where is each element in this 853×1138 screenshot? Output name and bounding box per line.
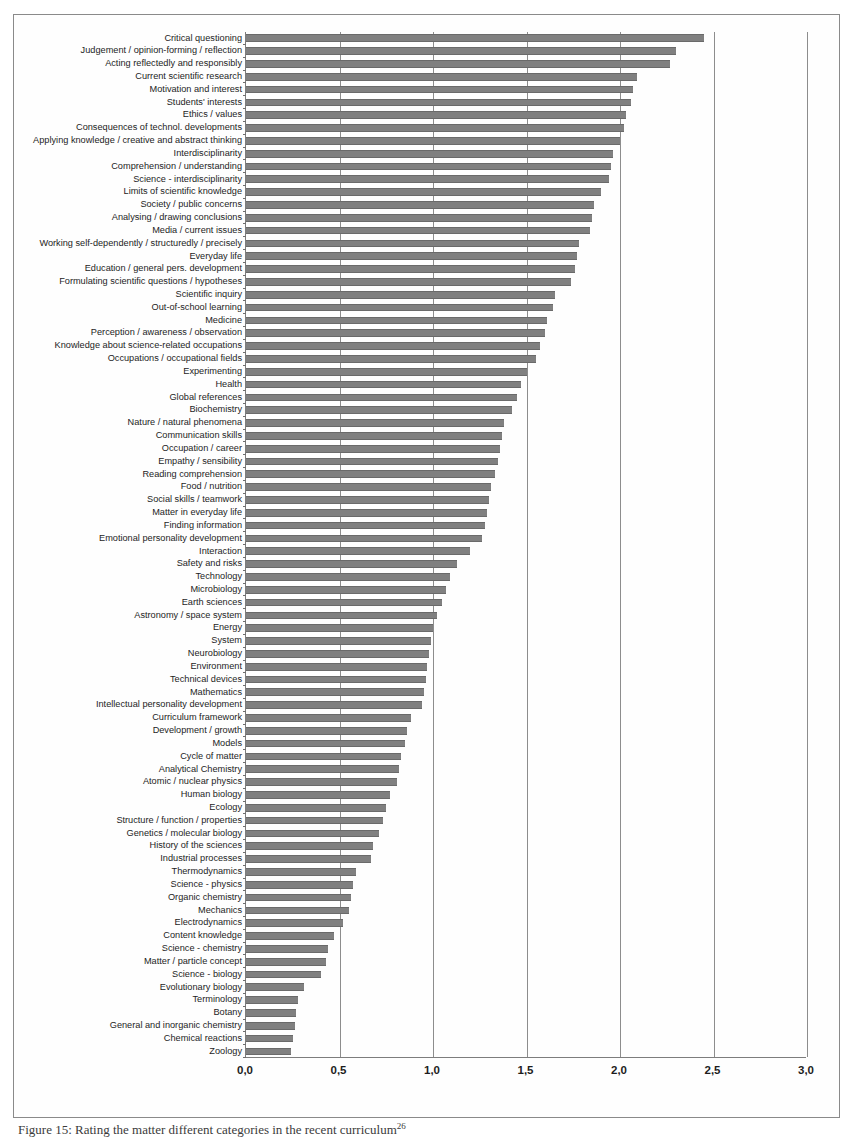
category-label: Finding information [164,519,242,532]
bar [246,175,609,183]
bar [246,778,397,786]
category-label: Society / public concerns [140,198,242,211]
category-label: Matter / particle concept [144,955,242,968]
bar [246,535,482,543]
bar [246,894,351,902]
bar [246,1022,295,1030]
x-axis-tick-labels: 0,00,51,01,52,02,53,0 [245,1064,806,1084]
bar-row: Nature / natural phenomena [246,417,806,430]
category-label: Thermodynamics [172,865,242,878]
category-label: Everyday life [189,250,242,263]
figure-caption-text: Figure 15: Rating the matter different c… [18,1122,397,1137]
category-label: Empathy / sensibility [158,455,242,468]
bar [246,227,590,235]
bar-row: Formulating scientific questions / hypot… [246,276,806,289]
bar [246,637,431,645]
category-label: Neurobiology [188,647,242,660]
bar [246,291,555,299]
bar-row: Finding information [246,519,806,532]
category-label: Experimenting [183,365,242,378]
category-label: Atomic / nuclear physics [143,775,242,788]
bar-row: Mathematics [246,686,806,699]
bar-row: Astronomy / space system [246,609,806,622]
bar [246,624,433,632]
category-label: Ethics / values [183,108,242,121]
bar [246,868,356,876]
bar [246,201,594,209]
bar-row: Acting reflectedly and responsibly [246,58,806,71]
bar [246,137,620,145]
y-axis-tick [243,1057,246,1058]
bar [246,945,328,953]
category-label: Medicine [205,314,242,327]
bar-row: History of the sciences [246,840,806,853]
category-label: Microbiology [190,583,242,596]
bar [246,765,399,773]
bar [246,432,502,440]
bar [246,791,390,799]
bar [246,470,495,478]
bar-row: Models [246,737,806,750]
bar-row: Zoology [246,1045,806,1058]
category-label: Social skills / teamwork [147,493,242,506]
plot-area: Critical questioningJudgement / opinion-… [245,32,806,1058]
bar-row: Ethics / values [246,109,806,122]
category-label: Astronomy / space system [134,609,242,622]
bar [246,932,334,940]
category-label: History of the sciences [150,839,242,852]
category-label: Electrodynamics [175,916,242,929]
bar [246,817,383,825]
bar-row: Human biology [246,789,806,802]
bar [246,252,577,260]
bar [246,586,446,594]
bar [246,907,349,915]
category-label: Acting reflectedly and responsibly [105,57,242,70]
category-label: Scientific inquiry [176,288,242,301]
bar-row: Communication skills [246,430,806,443]
figure-caption-footnote: 26 [397,1121,406,1131]
bar-row: Judgement / opinion-forming / reflection [246,45,806,58]
bar-row: Working self-dependently / structuredly … [246,237,806,250]
bar [246,188,601,196]
bar [246,355,536,363]
bar-row: Reading comprehension [246,468,806,481]
bar [246,919,343,927]
bar-row: Microbiology [246,583,806,596]
category-label: Industrial processes [160,852,242,865]
bar-row: Science - interdisciplinarity [246,173,806,186]
category-label: Zoology [209,1045,242,1058]
bar-row: Electrodynamics [246,917,806,930]
bar-row: Biochemistry [246,404,806,417]
bar-row: Everyday life [246,250,806,263]
bar-row: Applying knowledge / creative and abstra… [246,135,806,148]
bar-row: Technology [246,571,806,584]
bar [246,509,487,517]
category-label: Human biology [181,788,242,801]
figure-caption: Figure 15: Rating the matter different c… [18,1121,838,1138]
category-label: Food / nutrition [181,480,242,493]
category-label: Global references [169,391,242,404]
bar [246,1048,291,1056]
category-label: Science - chemistry [162,942,242,955]
bar-row: Health [246,378,806,391]
bar [246,701,422,709]
bar-row: Occupation / career [246,442,806,455]
bar [246,458,498,466]
bar [246,522,485,530]
bar-row: Botany [246,1007,806,1020]
bar-row: Current scientific research [246,70,806,83]
bar [246,996,298,1004]
x-tick-label: 1,5 [518,1064,534,1076]
category-label: Terminology [192,993,242,1006]
bar [246,612,437,620]
x-tick-label: 2,0 [611,1064,627,1076]
category-label: Media / current issues [152,224,242,237]
category-label: Critical questioning [164,32,242,45]
gridline [807,32,808,1057]
bar [246,394,517,402]
bar-row: Limits of scientific knowledge [246,186,806,199]
x-tick-label: 0,0 [237,1064,253,1076]
bar [246,714,411,722]
bar [246,650,429,658]
bar-row: Science - chemistry [246,943,806,956]
